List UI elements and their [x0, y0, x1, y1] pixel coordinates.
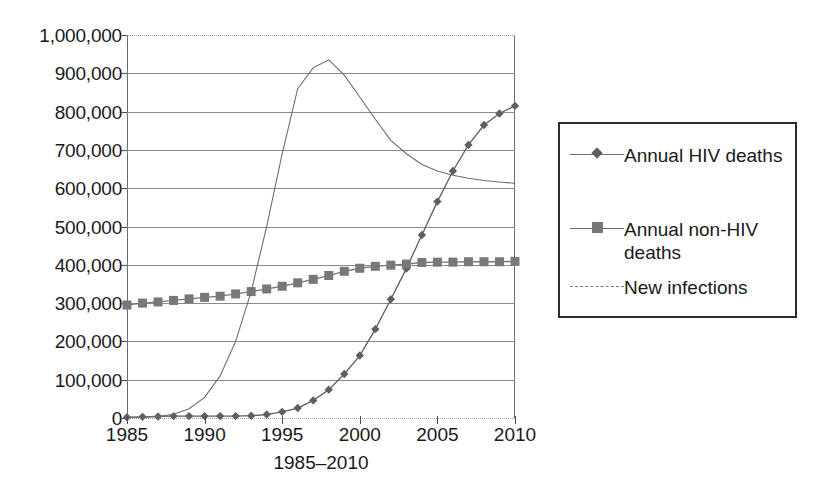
data-point-square [433, 258, 442, 267]
x-axis-tick-label: 1985 [106, 424, 148, 446]
data-point-square [448, 258, 457, 267]
data-point-square [340, 267, 349, 276]
data-point-diamond [278, 408, 286, 416]
data-point-square [200, 293, 209, 302]
data-point-square [417, 258, 426, 267]
data-point-square [309, 275, 318, 284]
legend-item-label: Annual HIV deaths [624, 144, 782, 167]
data-point-square [262, 284, 271, 293]
x-axis-tick-label: 1990 [183, 424, 225, 446]
data-point-square [123, 301, 132, 310]
y-axis-tick-label: 1,000,000 [4, 26, 122, 45]
data-point-diamond [418, 231, 426, 239]
y-axis-tick-label: 200,000 [4, 332, 122, 351]
data-point-diamond [262, 410, 270, 418]
plot-area [127, 35, 515, 418]
data-point-diamond [294, 404, 302, 412]
x-axis-tick-mark [360, 416, 361, 424]
data-point-square [293, 278, 302, 287]
x-axis-title: 1985–2010 [127, 452, 515, 474]
legend-marker-square-icon [592, 222, 603, 233]
data-point-square [185, 294, 194, 303]
data-point-square [371, 262, 380, 271]
data-point-square [386, 261, 395, 270]
legend-item[interactable]: Annual HIV deaths [570, 144, 792, 167]
legend-line [570, 286, 624, 287]
data-point-square [154, 297, 163, 306]
x-axis-tick-mark [127, 416, 128, 424]
data-point-square [278, 282, 287, 291]
y-axis-tick-label: 600,000 [4, 179, 122, 198]
series-annual-non-hiv-deaths [123, 257, 520, 310]
data-point-square [324, 271, 333, 280]
y-axis-tick-label: 800,000 [4, 103, 122, 122]
legend-marker-diamond-icon [591, 147, 602, 158]
x-axis-tick-label: 2000 [339, 424, 381, 446]
chart-figure: 0100,000200,000300,000400,000500,000600,… [0, 0, 838, 490]
legend-item-label: New infections [624, 276, 748, 299]
y-axis-tick-labels: 0100,000200,000300,000400,000500,000600,… [0, 35, 122, 418]
data-point-square [169, 296, 178, 305]
data-point-square [464, 257, 473, 266]
data-point-diamond [309, 396, 317, 404]
data-point-diamond [433, 197, 441, 205]
y-axis-tick-label: 400,000 [4, 256, 122, 275]
y-axis-tick-label: 100,000 [4, 371, 122, 390]
series-line [127, 60, 515, 418]
legend-swatch-diamond [570, 145, 624, 165]
legend-swatch-square [570, 219, 624, 239]
data-point-square [231, 289, 240, 298]
gridline [127, 418, 515, 419]
legend-swatch-none [570, 277, 624, 297]
y-axis-tick-label: 0 [4, 409, 122, 428]
x-axis-tick-labels: 198519901995200020052010 [127, 424, 515, 454]
data-point-diamond [511, 102, 519, 110]
data-point-square [138, 299, 147, 308]
x-axis-tick-label: 1995 [261, 424, 303, 446]
data-point-diamond [231, 412, 239, 420]
data-point-square [355, 264, 364, 273]
legend-item[interactable]: New infections [570, 276, 792, 299]
legend-item[interactable]: Annual non-HIV deaths [570, 218, 792, 264]
x-axis-tick-mark [282, 416, 283, 424]
x-axis-tick-mark [205, 416, 206, 424]
data-point-diamond [371, 325, 379, 333]
y-axis-tick-label: 700,000 [4, 141, 122, 160]
x-axis-tick-mark [515, 416, 516, 424]
data-point-square [479, 257, 488, 266]
legend-item-label: Annual non-HIV deaths [624, 218, 792, 264]
y-axis-tick-label: 900,000 [4, 64, 122, 83]
series-new-infections [127, 60, 515, 418]
series-plot [127, 35, 515, 418]
data-point-square [495, 257, 504, 266]
y-axis-tick-label: 300,000 [4, 294, 122, 313]
data-point-diamond [185, 412, 193, 420]
y-axis-tick-label: 500,000 [4, 218, 122, 237]
x-axis-tick-label: 2005 [416, 424, 458, 446]
data-point-diamond [387, 295, 395, 303]
data-point-square [511, 257, 520, 266]
chart-legend: Annual HIV deathsAnnual non-HIV deathsNe… [558, 122, 797, 318]
data-point-square [402, 260, 411, 269]
x-axis-tick-label: 2010 [494, 424, 536, 446]
x-axis-tick-mark [437, 416, 438, 424]
data-point-square [216, 292, 225, 301]
data-point-diamond [216, 412, 224, 420]
